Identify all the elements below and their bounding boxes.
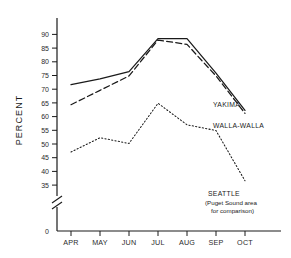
x-tick-label: SEP [209,238,224,247]
x-tick-label: MAY [92,238,108,247]
y-tick-label: 85 [41,45,49,52]
x-tick-label: JUN [122,238,137,247]
y-tick-zero: 0 [45,228,49,235]
y-tick-label: 90 [41,31,49,38]
chart-figure: PERCENT 90 85 80 [0,0,291,258]
y-tick-label: 55 [41,127,49,134]
y-tick-label: 35 [41,182,49,189]
y-tick-label: 40 [41,168,49,175]
x-tick-label: AUG [179,238,195,247]
y-tick-label: 80 [41,58,49,65]
y-tick-label: 65 [41,100,49,107]
seattle-note-line1: (Puget Sound area [205,199,258,206]
x-tick-label: APR [63,238,78,247]
x-tick-label: JUL [151,238,164,247]
series-label-yakima: YAKIMA [213,101,240,108]
y-tick-label-zero: 0 [45,228,49,235]
y-tick-label: 60 [41,113,49,120]
series-label-seattle: SEATTLE [208,190,240,197]
y-axis-title: PERCENT [14,95,24,146]
series-label-walla-walla: WALLA-WALLA [213,122,264,129]
seattle-note-line2: for comparison) [211,207,254,214]
y-tick-label: 75 [41,72,49,79]
line-chart-canvas: PERCENT 90 85 80 [0,0,291,258]
y-tick-label: 45 [41,154,49,161]
y-tick-label: 50 [41,141,49,148]
x-tick-label: OCT [237,238,253,247]
y-tick-label: 70 [41,86,49,93]
